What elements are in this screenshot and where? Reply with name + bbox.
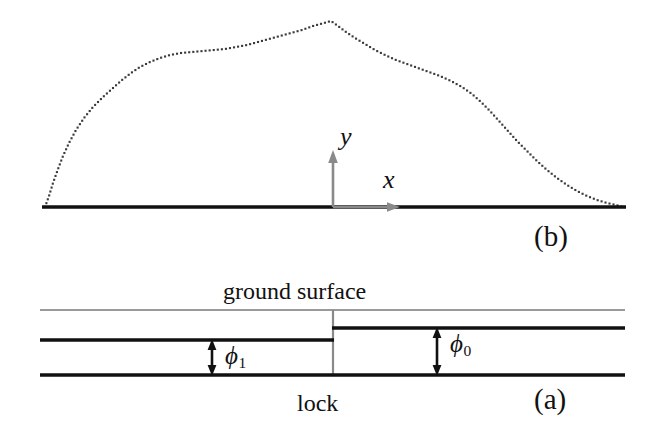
panel-a-tag: (a) — [534, 385, 566, 414]
curve-dot — [499, 121, 501, 123]
curve-dot — [149, 61, 151, 63]
curve-dot — [172, 53, 174, 55]
curve-dot — [200, 50, 202, 52]
phi-1-subscript: 1 — [238, 354, 246, 371]
curve-dot — [485, 106, 487, 108]
curve-dot — [557, 178, 559, 180]
curve-dot — [308, 26, 310, 28]
curve-dot — [433, 73, 435, 75]
curve-dot — [65, 148, 67, 150]
panel-b: y x (b) — [0, 0, 657, 265]
curve-dot — [245, 44, 247, 46]
curve-dot — [164, 55, 166, 57]
curve-dot — [366, 44, 368, 46]
phi-1-label: ϕ1 — [225, 343, 246, 371]
curve-dot — [257, 41, 259, 43]
curve-dot — [608, 203, 610, 205]
curve-dot — [324, 22, 326, 24]
curve-dot — [225, 48, 227, 50]
x-axis-label: x — [383, 167, 395, 193]
curve-dot — [160, 57, 162, 59]
curve-dot — [490, 111, 492, 113]
curve-dot — [469, 92, 471, 94]
curve-dot — [328, 21, 330, 23]
curve-dot — [115, 84, 117, 86]
curve-dot — [448, 79, 450, 81]
curve-dot — [261, 40, 263, 42]
curve-dot — [387, 55, 389, 57]
curve-dot — [273, 37, 275, 39]
curve-dot — [578, 191, 580, 193]
curve-dot — [196, 50, 198, 52]
curve-dot — [71, 137, 73, 139]
curve-dot — [456, 83, 458, 85]
curve-dot — [560, 180, 562, 182]
curve-dot — [335, 23, 337, 25]
curve-dot — [145, 63, 147, 65]
curve-dot — [538, 162, 540, 164]
curve-dot — [479, 100, 481, 102]
curve-dot — [109, 90, 111, 92]
curve-dot — [281, 34, 283, 36]
curve-dot — [345, 31, 347, 33]
curve-dot — [384, 54, 386, 56]
curve-dot — [507, 130, 509, 132]
curve-dot — [221, 48, 223, 50]
curve-dot — [320, 23, 322, 25]
curve-dot — [597, 199, 599, 201]
curve-dot — [152, 60, 154, 62]
lock-label: lock — [297, 391, 338, 415]
curve-dot — [544, 167, 546, 169]
curve-dot — [406, 63, 408, 65]
curve-dot — [589, 196, 591, 198]
curve-dot — [94, 104, 96, 106]
curve-dot — [184, 52, 186, 54]
curve-dot — [352, 35, 354, 37]
curve-dot — [429, 71, 431, 73]
curve-dot — [156, 58, 158, 60]
curve-dot — [79, 123, 81, 125]
curve-dot — [54, 175, 56, 177]
curve-dot — [293, 31, 295, 33]
curve-dot — [529, 153, 531, 155]
curve-dot — [554, 175, 556, 177]
curve-dot — [441, 76, 443, 78]
curve-dot — [373, 48, 375, 50]
curve-dot — [410, 64, 412, 66]
curve-dot — [128, 74, 130, 76]
panel-b-tag: (b) — [534, 222, 568, 251]
curve-dot — [285, 33, 287, 35]
curve-dot — [277, 36, 279, 38]
curve-dot — [269, 38, 271, 40]
curve-dot — [551, 173, 553, 175]
curve-dot — [100, 98, 102, 100]
curve-dot — [355, 38, 357, 40]
curve-dot — [380, 52, 382, 54]
curve-dot — [348, 33, 350, 35]
curve-dot — [473, 94, 475, 96]
curve-dot — [77, 127, 79, 129]
curve-dot — [535, 159, 537, 161]
curve-dot — [213, 49, 215, 51]
curve-dot — [332, 21, 334, 23]
curve-dot — [233, 46, 235, 48]
curve-dot — [69, 141, 71, 143]
curve-dot — [604, 202, 606, 204]
curve-dot — [515, 139, 517, 141]
ground-surface-label: ground surface — [223, 279, 366, 303]
curve-dot — [418, 67, 420, 69]
curve-dot — [241, 45, 243, 47]
curve-dot — [134, 69, 136, 71]
curve-dot — [103, 95, 105, 97]
curve-dot — [89, 110, 91, 112]
curve-dot — [265, 39, 267, 41]
curve-dot — [452, 81, 454, 83]
curve-dot — [564, 182, 566, 184]
curve-dot — [209, 49, 211, 51]
curve-dot — [300, 29, 302, 31]
curve-dot — [532, 156, 534, 158]
curve-dot — [501, 124, 503, 126]
curve-dot — [547, 170, 549, 172]
curve-dot — [112, 87, 114, 89]
curve-dot — [141, 65, 143, 67]
